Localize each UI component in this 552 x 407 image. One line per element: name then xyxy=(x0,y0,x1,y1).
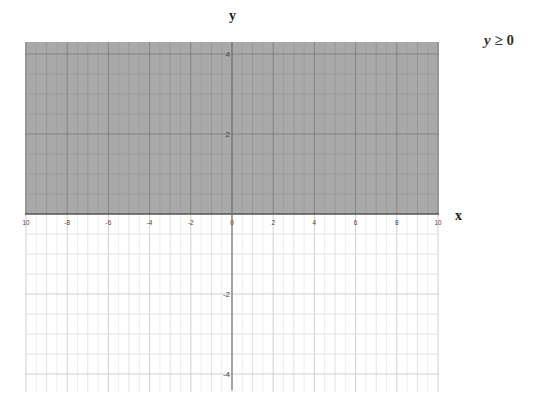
y-tick-label: 2 xyxy=(226,130,231,139)
x-tick-label: 0 xyxy=(230,217,234,227)
x-tick-label: -4 xyxy=(147,217,153,227)
x-tick-label: 6 xyxy=(354,217,358,227)
y-tick-label: -4 xyxy=(223,370,231,379)
inequality-variable: y xyxy=(484,32,491,48)
y-tick-label: -2 xyxy=(223,290,231,299)
x-tick-label: 2 xyxy=(271,217,275,227)
inequality-value: 0 xyxy=(506,32,514,48)
x-tick-label: 10 xyxy=(434,217,441,227)
x-tick-label: 8 xyxy=(395,217,399,227)
x-tick-label: 10 xyxy=(22,217,29,227)
x-tick-label: 4 xyxy=(313,217,317,227)
x-tick-label: -6 xyxy=(106,217,112,227)
inequality-operator: ≥ xyxy=(494,32,502,48)
inequality-plot: 10-8-6-4-2024681042-2-4 xyxy=(0,0,552,407)
x-axis-title: x xyxy=(455,208,462,224)
y-axis-title: y xyxy=(229,8,236,24)
x-tick-label: -2 xyxy=(188,217,194,227)
inequality-label: y ≥ 0 xyxy=(484,32,514,49)
y-tick-label: 4 xyxy=(226,50,231,59)
x-tick-label: -8 xyxy=(64,217,70,227)
